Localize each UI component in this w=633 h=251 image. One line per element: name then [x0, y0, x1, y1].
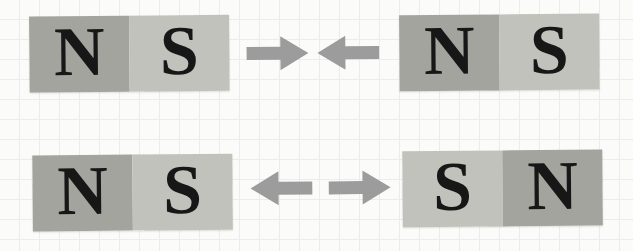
pole-label: S [433, 152, 473, 222]
pole-label: S [160, 16, 200, 86]
arrow-left-icon [250, 171, 312, 206]
magnet-diagram: N S N S N [0, 0, 633, 251]
pole-label: N [527, 151, 578, 221]
pole-label: N [57, 156, 108, 226]
arrow-left-icon [317, 35, 379, 70]
pole-label: S [163, 155, 203, 225]
arrow-right-icon [246, 36, 308, 71]
pole-label: N [54, 17, 105, 87]
magnet-top-left: N S [29, 15, 230, 93]
south-pole: S [132, 154, 233, 231]
magnet-bottom-left: N S [32, 154, 233, 232]
magnet-top-right: N S [399, 14, 600, 92]
north-pole: N [32, 155, 133, 232]
north-pole: N [29, 16, 130, 93]
graph-paper-page: N S N S N [0, 0, 633, 251]
arrow-right-icon [328, 170, 390, 205]
south-pole: S [129, 15, 230, 92]
pole-label: S [530, 15, 570, 85]
magnet-bottom-right: S N [402, 150, 603, 228]
north-pole: N [399, 14, 500, 91]
south-pole: S [402, 150, 503, 227]
south-pole: S [499, 14, 600, 91]
north-pole: N [502, 150, 603, 227]
pole-label: N [424, 16, 475, 86]
